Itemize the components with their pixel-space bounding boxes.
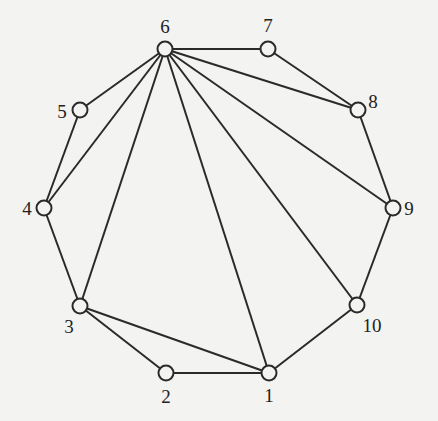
edge-6-9 <box>165 49 393 208</box>
node-label-7: 7 <box>263 15 273 36</box>
node-6 <box>158 42 173 57</box>
edge-6-1 <box>165 49 269 373</box>
edge-4-5 <box>44 110 80 208</box>
node-label-6: 6 <box>160 16 170 37</box>
node-2 <box>159 366 174 381</box>
node-9 <box>386 201 401 216</box>
node-label-10: 10 <box>363 315 382 336</box>
edge-5-6 <box>80 49 165 110</box>
nodes <box>37 42 401 381</box>
graph-diagram: 12345678910 <box>0 0 438 421</box>
node-4 <box>37 201 52 216</box>
node-label-5: 5 <box>57 101 67 122</box>
node-1 <box>262 366 277 381</box>
node-label-1: 1 <box>264 385 274 406</box>
edge-3-1 <box>80 306 269 373</box>
edge-2-3 <box>80 306 166 373</box>
node-3 <box>73 299 88 314</box>
edges <box>44 49 393 373</box>
node-label-8: 8 <box>368 91 378 112</box>
node-label-4: 4 <box>22 198 32 219</box>
node-label-9: 9 <box>404 198 414 219</box>
node-7 <box>261 42 276 57</box>
edge-6-8 <box>165 49 358 110</box>
node-8 <box>351 103 366 118</box>
node-label-2: 2 <box>161 386 171 407</box>
edge-8-9 <box>358 110 393 208</box>
edge-6-4 <box>44 49 165 208</box>
edge-9-10 <box>357 208 393 305</box>
edge-6-3 <box>80 49 165 306</box>
node-5 <box>73 103 88 118</box>
edge-7-8 <box>268 49 358 110</box>
node-10 <box>350 298 365 313</box>
node-label-3: 3 <box>64 316 74 337</box>
edge-3-4 <box>44 208 80 306</box>
edge-10-1 <box>269 305 357 373</box>
edge-6-10 <box>165 49 357 305</box>
